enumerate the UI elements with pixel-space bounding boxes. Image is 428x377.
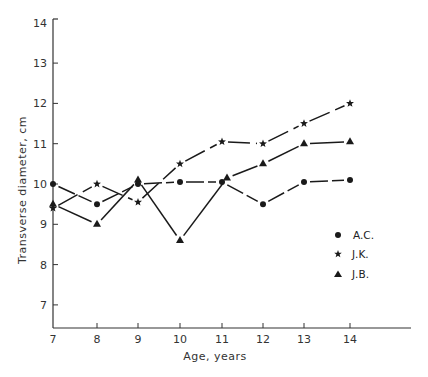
circle-marker-icon [260, 201, 266, 207]
series-line-segment [58, 207, 91, 222]
y-tick-label: 7 [40, 299, 47, 312]
series-jk [49, 99, 354, 211]
legend-label: A.C. [353, 229, 374, 241]
line-chart: 7891011121314 7891011121314 Age, years T… [0, 0, 428, 377]
triangle-marker-icon [93, 220, 101, 227]
y-tick-label: 12 [33, 97, 47, 110]
series-line-segment [58, 187, 91, 205]
series-line-segment [58, 186, 91, 201]
series-line-segment [141, 185, 176, 236]
x-tick-label: 8 [94, 333, 101, 346]
star-marker-icon [134, 198, 142, 206]
star-marker-icon [346, 99, 354, 107]
triangle-marker-icon [259, 159, 267, 166]
x-tick-label: 12 [256, 333, 270, 346]
star-marker-icon [93, 180, 101, 188]
x-ticks: 7891011121314 [50, 323, 358, 346]
triangle-marker-icon [49, 200, 57, 207]
series-line-segment [233, 166, 258, 176]
star-marker-icon [176, 160, 184, 168]
y-tick-label: 13 [33, 57, 47, 70]
circle-marker-icon [335, 232, 341, 238]
y-tick-label: 14 [33, 17, 47, 30]
star-marker-icon [218, 137, 226, 145]
x-tick-label: 14 [343, 333, 357, 346]
legend-label: J.K. [351, 248, 369, 260]
series-line-segment [268, 146, 298, 161]
data-series [49, 99, 354, 243]
series-line-segment [309, 106, 344, 121]
triangle-marker-icon [334, 271, 342, 278]
series-line-segment [144, 182, 174, 183]
y-tick-label: 8 [40, 259, 47, 272]
circle-marker-icon [301, 179, 307, 185]
x-tick-label: 11 [215, 333, 229, 346]
y-ticks: 7891011121314 [33, 17, 58, 312]
legend-item-a-c: A.C. [335, 229, 374, 241]
circle-marker-icon [177, 179, 183, 185]
triangle-marker-icon [223, 173, 231, 180]
y-tick-label: 11 [33, 138, 47, 151]
axes [53, 19, 411, 328]
triangle-marker-icon [134, 175, 142, 182]
circle-marker-icon [347, 177, 353, 183]
legend-item-j-k: J.K. [334, 248, 368, 260]
star-marker-icon [334, 250, 342, 257]
series-line-segment [228, 142, 257, 143]
series-line-segment [101, 184, 134, 220]
legend-item-j-b: J.B. [334, 268, 369, 280]
series-ac [50, 177, 353, 207]
circle-marker-icon [94, 201, 100, 207]
series-line-segment [227, 185, 257, 201]
x-tick-label: 9 [135, 333, 142, 346]
triangle-marker-icon [300, 139, 308, 146]
legend: A.C. J.K. J.B. [334, 229, 374, 280]
series-line-segment [185, 144, 216, 161]
series-line-segment [184, 183, 224, 236]
series-line-segment [268, 185, 298, 201]
series-line-segment [268, 126, 298, 141]
x-tick-label: 10 [173, 333, 187, 346]
legend-label: J.B. [351, 268, 369, 280]
x-tick-label: 7 [50, 333, 57, 346]
y-tick-label: 9 [40, 218, 47, 231]
triangle-marker-icon [176, 236, 184, 243]
x-axis-title: Age, years [183, 350, 247, 363]
triangle-marker-icon [346, 137, 354, 144]
circle-marker-icon [50, 181, 56, 187]
x-tick-label: 13 [297, 333, 311, 346]
series-line-segment [310, 142, 344, 143]
series-line-segment [310, 180, 344, 181]
y-axis-title: Transverse diameter, cm [16, 116, 29, 265]
star-marker-icon [300, 119, 308, 127]
star-marker-icon [259, 140, 267, 148]
y-tick-label: 10 [33, 178, 47, 191]
